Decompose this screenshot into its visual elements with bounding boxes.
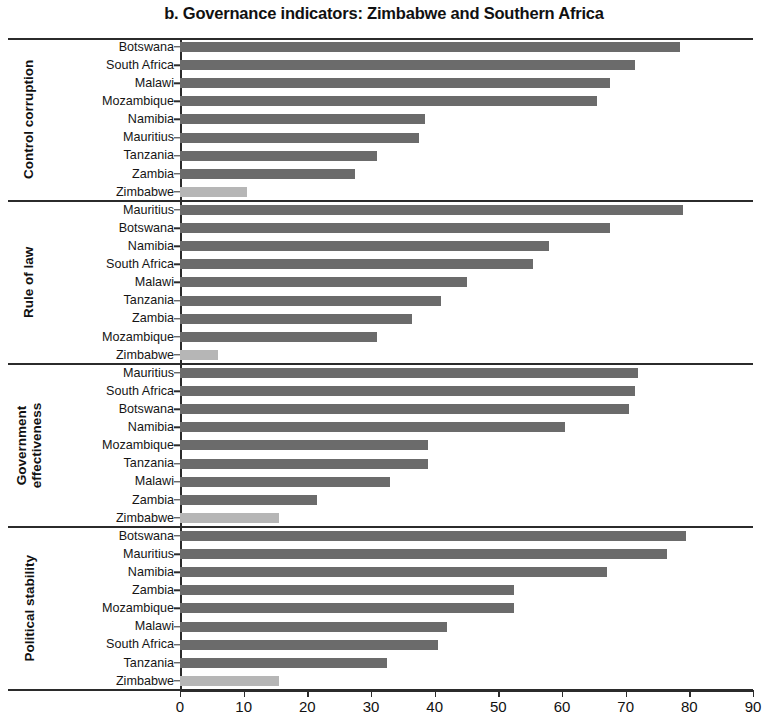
- x-tick-mark: [689, 690, 690, 697]
- bar-row: [180, 74, 753, 92]
- bar: [180, 368, 638, 378]
- bar-row: [180, 491, 753, 509]
- y-tick-mark: [174, 336, 180, 337]
- y-tick-mark: [174, 282, 180, 283]
- bar: [180, 42, 680, 52]
- y-tick-mark: [174, 246, 180, 247]
- category-label: Mozambique: [46, 95, 174, 108]
- y-tick-mark: [174, 46, 180, 47]
- bar-row: [180, 455, 753, 473]
- bar-row: [180, 509, 753, 527]
- category-label: Botswana: [46, 222, 174, 235]
- category-label: South Africa: [46, 258, 174, 271]
- bar: [180, 603, 514, 613]
- x-tick-mark: [435, 690, 436, 697]
- y-tick-mark: [174, 680, 180, 681]
- y-tick-mark: [174, 445, 180, 446]
- bar: [180, 531, 686, 541]
- bar: [180, 495, 317, 505]
- bar: [180, 205, 683, 215]
- group-axis-title-label: Political stability: [23, 555, 38, 662]
- category-label: Malawi: [46, 276, 174, 289]
- indicator-group: Political stabilityBotswanaMauritiusNami…: [8, 527, 753, 690]
- y-tick-mark: [174, 572, 180, 573]
- bar-row: [180, 346, 753, 364]
- category-label: Zambia: [46, 584, 174, 597]
- y-tick-mark: [174, 499, 180, 500]
- indicator-group: Control corruptionBotswanaSouth AfricaMa…: [8, 38, 753, 201]
- category-label: Mauritius: [46, 367, 174, 380]
- y-tick-mark: [174, 390, 180, 391]
- y-tick-mark: [174, 318, 180, 319]
- category-label: Zambia: [46, 312, 174, 325]
- bar: [180, 404, 629, 414]
- group-label-column: Rule of lawMauritiusBotswanaNamibiaSouth…: [8, 201, 180, 364]
- x-tick-mark: [562, 690, 563, 697]
- bar: [180, 114, 425, 124]
- x-tick-label: 30: [363, 698, 380, 715]
- bar: [180, 296, 441, 306]
- y-tick-mark: [174, 227, 180, 228]
- x-tick-label: 0: [176, 698, 184, 715]
- category-label: Malawi: [46, 77, 174, 90]
- bar-row: [180, 418, 753, 436]
- bar-highlight: [180, 187, 247, 197]
- category-label-list: BotswanaSouth AfricaMalawiMozambiqueNami…: [46, 38, 174, 201]
- category-label: Tanzania: [46, 657, 174, 670]
- category-label: Namibia: [46, 421, 174, 434]
- x-tick-mark: [371, 690, 372, 697]
- category-label: South Africa: [46, 638, 174, 651]
- group-axis-title: Government effectiveness: [10, 364, 50, 527]
- bar-row: [180, 237, 753, 255]
- y-tick-mark: [174, 191, 180, 192]
- bar: [180, 386, 635, 396]
- group-axis-title: Political stability: [10, 527, 50, 690]
- bar: [180, 277, 467, 287]
- group-label-column: Control corruptionBotswanaSouth AfricaMa…: [8, 38, 180, 201]
- group-separator-top: [8, 38, 753, 40]
- y-tick-mark: [174, 463, 180, 464]
- category-label: Botswana: [46, 41, 174, 54]
- y-tick-mark: [174, 626, 180, 627]
- bars-column: [180, 201, 753, 364]
- x-axis: 0102030405060708090: [8, 690, 753, 720]
- bar-row: [180, 129, 753, 147]
- category-label: Malawi: [46, 475, 174, 488]
- x-tick-mark: [180, 690, 181, 697]
- x-tick-label: 90: [745, 698, 762, 715]
- bar-row: [180, 56, 753, 74]
- group-label-column: Government effectivenessMauritiusSouth A…: [8, 364, 180, 527]
- category-label: Mozambique: [46, 331, 174, 344]
- x-tick-label: 50: [490, 698, 507, 715]
- bar-row: [180, 382, 753, 400]
- bar-row: [180, 111, 753, 129]
- bar: [180, 567, 607, 577]
- y-tick-mark: [174, 173, 180, 174]
- y-tick-mark: [174, 481, 180, 482]
- bar: [180, 422, 565, 432]
- bar-row: [180, 364, 753, 382]
- y-tick-mark: [174, 300, 180, 301]
- y-tick-mark: [174, 354, 180, 355]
- group-axis-title-label: Control corruption: [23, 60, 38, 179]
- chart-title: b. Governance indicators: Zimbabwe and S…: [0, 4, 768, 23]
- bar: [180, 60, 635, 70]
- bar: [180, 241, 549, 251]
- bar-row: [180, 183, 753, 201]
- category-label: Mauritius: [46, 204, 174, 217]
- x-tick-mark: [244, 690, 245, 697]
- y-tick-mark: [174, 409, 180, 410]
- bars-column: [180, 527, 753, 690]
- category-label: Mauritius: [46, 131, 174, 144]
- bar-highlight: [180, 676, 279, 686]
- bar: [180, 332, 377, 342]
- bar: [180, 78, 610, 88]
- bar-row: [180, 672, 753, 690]
- bar: [180, 477, 390, 487]
- category-label-list: BotswanaMauritiusNamibiaZambiaMozambique…: [46, 527, 174, 690]
- bar-row: [180, 400, 753, 418]
- group-axis-title: Control corruption: [10, 38, 50, 201]
- bars-column: [180, 364, 753, 527]
- x-tick-mark: [753, 690, 754, 697]
- bar: [180, 459, 428, 469]
